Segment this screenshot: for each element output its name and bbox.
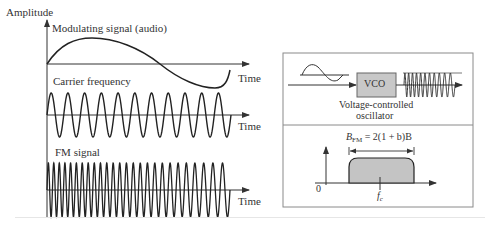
vco-label: VCO bbox=[364, 78, 385, 89]
vco-caption-line1: Voltage-controlled bbox=[339, 99, 413, 110]
bottom-rule bbox=[15, 217, 485, 218]
carrier-time-label: Time bbox=[238, 120, 261, 132]
spectrum-origin-label: 0 bbox=[316, 183, 321, 194]
modulating-signal-label: Modulating signal (audio) bbox=[52, 22, 167, 34]
carrier-frequency-fc-label: fc bbox=[377, 190, 383, 203]
carrier-frequency-label: Carrier frequency bbox=[53, 75, 131, 87]
fm-time-label: Time bbox=[238, 195, 261, 207]
modulating-time-label: Time bbox=[238, 72, 261, 84]
amplitude-axis-label: Amplitude bbox=[6, 6, 53, 18]
vco-caption-line2: oscillator bbox=[356, 110, 393, 121]
fm-signal-label: FM signal bbox=[55, 146, 100, 158]
bandwidth-formula: BFM = 2(1 + b)B bbox=[346, 131, 412, 144]
fm-spectrum-band bbox=[349, 158, 414, 183]
